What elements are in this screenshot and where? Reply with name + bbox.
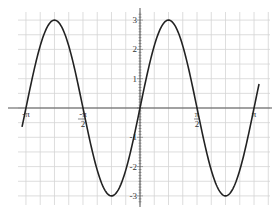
y-tick-label: 3 (133, 15, 138, 25)
svg-text:2: 2 (81, 119, 86, 129)
svg-text:2: 2 (195, 119, 200, 129)
y-tick-label: 2 (133, 44, 138, 54)
y-tick-label: 1 (133, 74, 138, 84)
sine-plot: 321-1-2-3 -π-π2π2π (0, 0, 280, 215)
y-tick-label: -2 (130, 162, 138, 172)
y-tick-label: -3 (130, 191, 138, 201)
